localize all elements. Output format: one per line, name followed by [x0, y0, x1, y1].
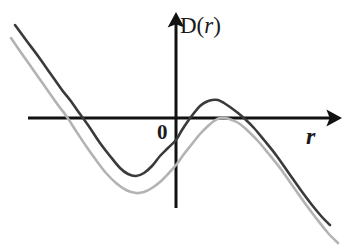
dark-curve	[15, 25, 330, 225]
axes-group	[28, 24, 330, 208]
origin-label: 0	[157, 122, 168, 143]
y-axis-label-prefix: D(	[180, 13, 204, 38]
x-axis-label: r	[306, 124, 315, 148]
y-axis-label-suffix: )	[213, 13, 221, 38]
y-axis-label-variable: r	[204, 13, 213, 38]
y-axis-label: D(r)	[180, 14, 221, 37]
plot-canvas	[0, 0, 350, 245]
plot-figure: D(r) 0 r	[0, 0, 350, 245]
